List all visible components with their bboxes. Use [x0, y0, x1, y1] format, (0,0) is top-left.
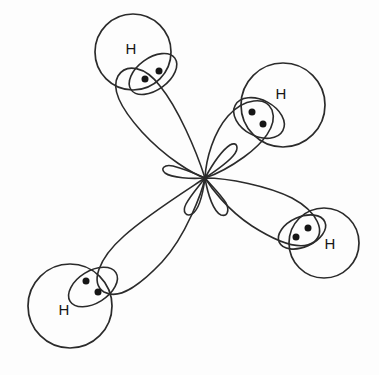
hydrogen-circles-group	[28, 14, 359, 348]
hydrogen-circle-bottom-left	[28, 264, 112, 348]
lobe-top-right	[205, 101, 273, 178]
lobe-right-lower	[205, 178, 319, 246]
electron-dot	[305, 225, 312, 232]
hydrogen-label-right-lower: H	[325, 235, 336, 252]
electron-dot	[260, 121, 267, 128]
hydrogen-label-top-left: H	[126, 40, 137, 57]
electron-dot	[293, 234, 300, 241]
electron-dot	[142, 76, 149, 83]
hydrogen-circle-top-right	[241, 63, 325, 147]
sp3-orbital-diagram: H H H H	[0, 0, 379, 375]
electron-dot	[83, 278, 90, 285]
lobe-bottom-left	[97, 178, 205, 294]
diagram-canvas: H H H H	[0, 0, 379, 375]
overlap-lens-bottom-left	[62, 259, 125, 315]
electron-dot	[156, 68, 163, 75]
electron-dot	[95, 289, 102, 296]
hydrogen-label-bottom-left: H	[59, 301, 70, 318]
overlap-lens-right-lower	[273, 208, 331, 256]
overlap-lens-group	[62, 45, 331, 315]
electron-dot	[249, 109, 256, 116]
hydrogen-label-top-right: H	[276, 85, 287, 102]
